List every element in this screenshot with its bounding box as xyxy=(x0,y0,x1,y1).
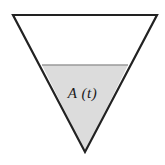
inverted-triangle-tank-diagram xyxy=(0,0,165,165)
figure-container: A (t) xyxy=(0,0,165,165)
area-function-label: A (t) xyxy=(0,84,165,102)
shaded-liquid-region xyxy=(42,65,128,152)
